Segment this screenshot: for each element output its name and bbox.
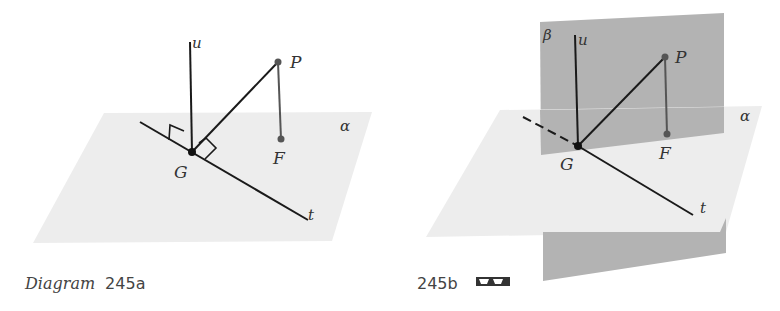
point-P: [275, 59, 282, 66]
label-G: G: [174, 162, 188, 182]
diagram-245b: β u P F G t α 245b: [417, 13, 762, 293]
point-P: [662, 54, 669, 61]
label-alpha: α: [740, 107, 750, 125]
point-G: [574, 142, 582, 150]
label-P: P: [674, 47, 687, 67]
caption-245a: Diagram 245a: [24, 274, 145, 293]
plane-alpha: [33, 112, 372, 243]
label-G: G: [560, 154, 574, 174]
diagram-canvas: u P F G t α Diagram 245a β u P F G t: [0, 0, 780, 311]
caption-number: 245a: [105, 274, 145, 293]
caption-prefix: Diagram: [24, 274, 95, 293]
3d-glasses-icon: [476, 277, 510, 286]
label-u: u: [192, 34, 202, 52]
point-G: [188, 148, 196, 156]
label-u: u: [578, 31, 588, 49]
diagram-245a: u P F G t α Diagram 245a: [24, 34, 372, 293]
label-t: t: [308, 206, 315, 224]
label-t: t: [700, 199, 707, 217]
caption-245b: 245b: [417, 274, 458, 293]
label-P: P: [289, 52, 302, 72]
label-alpha: α: [340, 117, 350, 135]
point-F: [664, 131, 671, 138]
label-beta: β: [542, 26, 552, 44]
label-F: F: [272, 148, 286, 168]
point-F: [278, 136, 285, 143]
label-F: F: [658, 143, 672, 163]
